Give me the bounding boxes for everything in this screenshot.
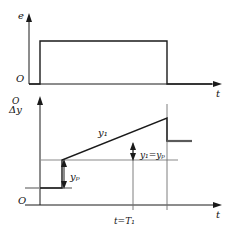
bottom-x-axis-label: t	[216, 209, 221, 220]
annotation-arrow-y1-eq-yp	[130, 142, 136, 161]
time-marker-label-t-equals-T1: t=T₁	[114, 216, 135, 226]
step-label-yp: yₚ	[69, 171, 80, 182]
equality-label-y1-eq-yp: y₁=yₚ	[139, 150, 165, 160]
timing-diagram-svg: e O t	[0, 0, 243, 243]
top-y-axis-label: e	[18, 10, 24, 21]
top-pulse-curve	[29, 41, 212, 84]
bottom-origin-label-2: O	[18, 195, 26, 206]
top-origin-label: O	[16, 73, 24, 84]
bottom-y-axis-arrowhead	[37, 96, 43, 105]
bottom-x-axis-arrowhead	[213, 202, 222, 208]
ramp-label-y1: y₁	[97, 127, 108, 138]
bottom-y-axis-label: Δy	[8, 104, 22, 115]
top-plot: e O t	[16, 10, 222, 99]
top-y-axis-arrowhead	[26, 13, 32, 22]
top-x-axis-arrowhead	[213, 81, 222, 87]
bottom-plot: O Δy O t y₁ y₁=yₚ yₚ t=T₁	[8, 96, 222, 226]
bottom-response-curve	[40, 118, 192, 188]
top-x-axis-label: t	[216, 88, 221, 99]
figure-container: e O t	[0, 0, 243, 243]
